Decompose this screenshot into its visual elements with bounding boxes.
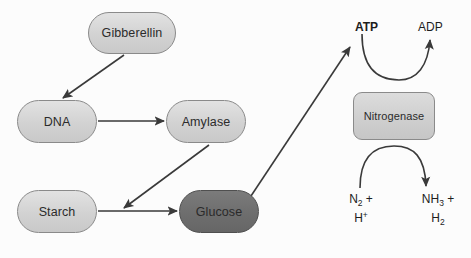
node-nitrogenase-label: Nitrogenase	[364, 110, 424, 122]
edge-substrate-to-product	[360, 146, 426, 188]
label-substrate: N2 + H+	[338, 192, 384, 225]
node-nitrogenase[interactable]: Nitrogenase	[353, 92, 435, 140]
label-product-line1: NH3 +	[422, 192, 454, 206]
label-adp: ADP	[418, 20, 443, 34]
diagram-canvas: Gibberellin DNA Amylase Starch Glucose N…	[0, 0, 471, 258]
edge-atp-to-adp	[362, 34, 430, 80]
node-gibberellin-label: Gibberellin	[102, 26, 163, 40]
node-starch[interactable]: Starch	[17, 190, 97, 233]
label-product: NH3 + H2	[411, 192, 465, 225]
node-dna[interactable]: DNA	[17, 100, 97, 143]
node-amylase[interactable]: Amylase	[166, 100, 246, 143]
node-amylase-label: Amylase	[182, 115, 231, 129]
node-dna-label: DNA	[44, 115, 71, 129]
node-glucose-label: Glucose	[196, 205, 243, 219]
edge-gibberellin-to-dna	[63, 55, 124, 98]
node-glucose[interactable]: Glucose	[179, 190, 259, 233]
label-substrate-line1: N2 +	[349, 192, 373, 206]
edge-glucose-to-atp	[247, 47, 350, 202]
node-starch-label: Starch	[39, 205, 76, 219]
label-substrate-line2: H+	[354, 211, 368, 225]
label-product-line2: H2	[431, 211, 444, 225]
node-gibberellin[interactable]: Gibberellin	[88, 12, 176, 54]
label-atp: ATP	[355, 20, 378, 34]
